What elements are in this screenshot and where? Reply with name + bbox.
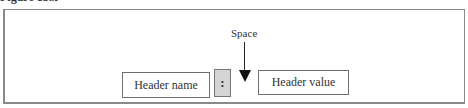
header-value-label: Header value xyxy=(272,75,336,90)
colon-separator-box: : xyxy=(214,69,231,97)
header-value-box: Header value xyxy=(258,70,349,95)
down-arrow-icon xyxy=(239,70,251,82)
space-label: Space xyxy=(231,27,257,39)
down-arrow-shaft xyxy=(244,42,245,72)
colon-separator: : xyxy=(220,75,224,91)
header-name-label: Header name xyxy=(134,78,198,93)
figure-caption: Figure 13.x xyxy=(0,0,58,3)
diagram-frame xyxy=(3,9,465,104)
header-name-box: Header name xyxy=(122,72,210,98)
